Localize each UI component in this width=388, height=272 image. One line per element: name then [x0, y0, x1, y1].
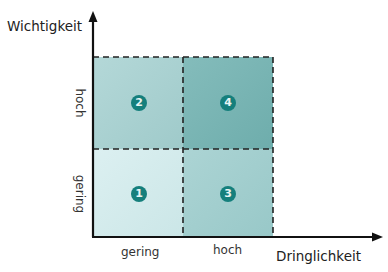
quadrant-1-badge: 1 [131, 186, 147, 202]
y-tick-hoch: hoch [73, 85, 87, 121]
x-axis-title: Dringlichkeit [276, 248, 361, 264]
y-axis-arrow-icon [89, 11, 98, 22]
y-tick-gering: gering [73, 171, 87, 217]
y-axis-title: Wichtigkeit [7, 18, 82, 34]
axes-and-grid [0, 0, 388, 272]
x-tick-hoch: hoch [213, 243, 242, 257]
quadrant-2-badge: 2 [131, 95, 147, 111]
quadrant-3-badge: 3 [220, 186, 236, 202]
quadrant-4-badge: 4 [220, 95, 236, 111]
grid-dashes [93, 57, 273, 237]
x-tick-gering: gering [121, 245, 160, 259]
x-axis-arrow-icon [372, 233, 383, 242]
